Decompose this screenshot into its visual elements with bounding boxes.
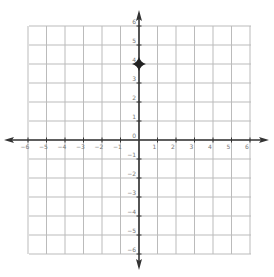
y-tick-label: 2 [132, 94, 136, 101]
y-tick-label: −1 [127, 151, 136, 158]
y-tick-label: 1 [132, 113, 136, 120]
x-tick-label: −5 [39, 143, 48, 150]
x-tick-label: 4 [208, 143, 212, 150]
x-tick-label: −4 [58, 143, 67, 150]
x-tick-label: −6 [21, 143, 30, 150]
y-tick-label: −6 [127, 246, 136, 253]
x-tick-label: 1 [153, 143, 157, 150]
x-tick-label: 5 [227, 143, 231, 150]
coordinate-plane: −6−5−4−3−2−11234566543210−1−2−3−4−5−6 [0, 0, 274, 277]
y-tick-label: 6 [132, 18, 136, 25]
x-tick-label: 2 [171, 143, 175, 150]
y-tick-label: 0 [132, 132, 136, 139]
y-tick-label: 4 [132, 56, 136, 63]
x-tick-label: −3 [76, 143, 85, 150]
x-tick-label: 6 [245, 143, 249, 150]
x-tick-label: −2 [95, 143, 104, 150]
y-tick-label: −3 [127, 189, 136, 196]
y-tick-label: 3 [132, 75, 136, 82]
x-tick-label: −1 [113, 143, 122, 150]
y-tick-label: −5 [127, 227, 136, 234]
x-tick-label: 3 [190, 143, 194, 150]
axes [4, 10, 269, 270]
y-tick-label: 5 [132, 37, 136, 44]
tick-labels: −6−5−4−3−2−11234566543210−1−2−3−4−5−6 [21, 18, 250, 253]
y-tick-label: −4 [127, 208, 136, 215]
y-tick-label: −2 [127, 170, 136, 177]
